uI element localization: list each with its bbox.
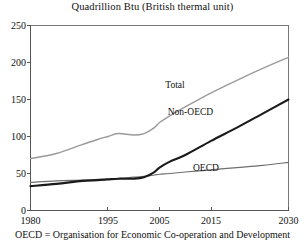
x-tick-label: 1980 [11,216,51,226]
line-chart-plot [0,0,305,244]
series-line-oecd [31,162,289,182]
x-tick-label: 2030 [269,216,306,226]
series-label-non-oecd: Non-OECD [168,107,213,117]
y-tick-label: 100 [0,132,26,142]
chart-figure: Quadrillion Btu (British thermal unit) 0… [0,0,305,244]
x-tick-label: 1995 [88,216,128,226]
series-line-non-oecd [31,100,289,187]
y-tick-label: 0 [0,206,26,216]
y-tick-label: 200 [0,58,26,68]
chart-footnote: OECD = Organisation for Economic Co-oper… [0,229,305,241]
x-tick-label: 2005 [140,216,180,226]
series-lines [31,57,289,186]
y-tick-label: 150 [0,95,26,105]
series-label-oecd: OECD [193,163,219,173]
series-line-total [31,57,289,158]
x-tick-label: 2015 [191,216,231,226]
series-label-total: Total [165,80,184,90]
y-tick-label: 50 [0,169,26,179]
y-tick-label: 250 [0,21,26,31]
